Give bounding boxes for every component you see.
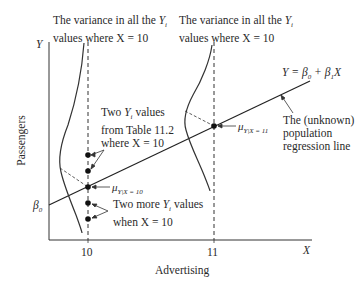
arrow-population (281, 95, 293, 113)
x-tick-10: 10 (81, 246, 93, 259)
arrow-more-values (92, 204, 108, 218)
regression-equation: Y = β0 + β1X (282, 66, 341, 84)
data-point-table-1 (85, 152, 91, 158)
title-variance-x10: The variance in all the Yi values where … (53, 14, 167, 45)
mean-point-x10 (85, 184, 91, 190)
data-point-more-2 (85, 216, 91, 222)
x-axis-symbol: X (303, 244, 310, 257)
mu-x10-label: μY|X = 10 (112, 181, 143, 199)
annotation-table-values: Two Yi values from Table 11.2 where X = … (101, 106, 174, 150)
x-axis-label: Advertising (155, 264, 209, 277)
x-tick-11: 11 (207, 246, 218, 259)
beta0-label: β0 (33, 199, 42, 217)
arrow-mu10 (92, 185, 110, 189)
annotation-more-values: Two more Yi values when X = 10 (113, 198, 203, 229)
arrow-mu11 (218, 124, 236, 128)
peak-to-mean-x11 (185, 111, 214, 126)
mean-point-x11 (211, 123, 217, 129)
arrow-table-values (91, 150, 104, 169)
title-variance-x11: The variance in all the Yi values where … (179, 14, 293, 45)
mu-x11-label: μY|X = 11 (238, 120, 268, 138)
annotation-population-line: The (unknown) population regression line (283, 114, 354, 153)
data-point-more-1 (85, 200, 91, 206)
data-point-table-2 (85, 168, 91, 174)
y-axis-label: Passengers (15, 111, 28, 171)
y-axis-symbol: Y (36, 38, 42, 51)
distribution-curve-x10 (60, 43, 84, 233)
